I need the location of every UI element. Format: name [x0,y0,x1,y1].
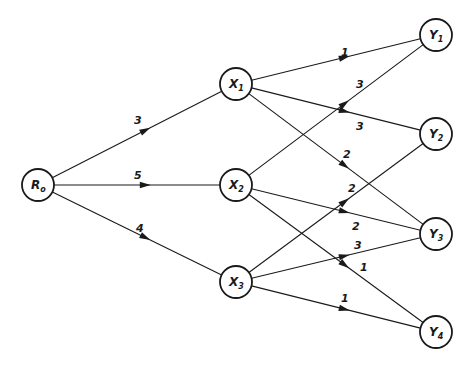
edge-X2-Y1 [249,45,423,176]
arrowhead-icon [139,128,150,136]
edge-R0-X1 [52,91,221,177]
node-Y1: Y1 [420,19,452,51]
node-Y3: Y3 [420,218,452,250]
edge-X1-Y1 [252,39,421,80]
arrowhead-icon [140,182,151,188]
edge-X2-Y3 [252,189,421,230]
edge-weight-label: 5 [134,169,142,182]
arrowhead-icon [338,254,349,260]
nodes-layer: RoX1X2X3Y1Y2Y3Y4 [22,19,452,348]
edge-weight-label: 3 [356,78,364,91]
edge-X3-Y4 [252,286,421,328]
edge-weight-label: 2 [348,182,356,195]
node-X1: X1 [220,68,252,100]
node-X2: X2 [220,169,252,201]
edge-R0-X2 [54,182,220,188]
edge-X1-Y2 [252,88,421,130]
arrowhead-icon [338,259,349,268]
edge-weight-label: 1 [360,261,368,274]
edge-weight-label: 3 [356,120,364,133]
edge-weight-label: 2 [352,220,360,233]
node-R0: Ro [22,169,54,201]
graph-svg: 354132321231 RoX1X2X3Y1Y2Y3Y4 [0,0,473,373]
arrowhead-icon [338,207,349,213]
edge-weight-label: 1 [341,292,349,305]
edge-X3-Y3 [252,238,421,279]
arrowhead-icon [338,305,349,311]
node-X3: X3 [220,266,252,298]
edge-weight-label: 4 [135,222,144,235]
arrowhead-icon [338,160,349,169]
edge-weight-label: 2 [343,148,351,161]
node-Y2: Y2 [420,118,452,150]
edge-weight-label: 3 [354,239,362,252]
edge-weight-label: 1 [341,46,349,59]
edge-X1-Y3 [249,94,423,225]
node-Y4: Y4 [420,316,452,348]
edge-X3-Y2 [249,144,423,273]
arrowhead-icon [338,198,349,207]
network-diagram: 354132321231 RoX1X2X3Y1Y2Y3Y4 [0,0,473,373]
edge-weight-label: 3 [134,114,142,127]
